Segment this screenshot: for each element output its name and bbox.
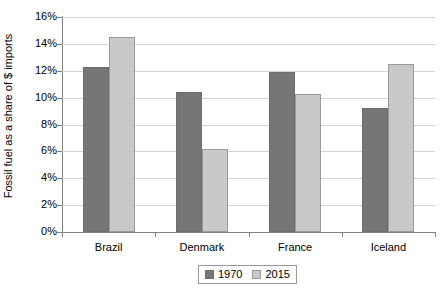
bar-france-2015 [295,94,321,232]
legend-swatch-1970-icon [205,270,214,279]
bar-brazil-2015 [109,37,135,232]
bar-group [269,17,321,232]
legend-label-1970: 1970 [218,268,242,281]
bar-denmark-2015 [202,149,228,232]
bar-france-1970 [269,72,295,232]
y-tick-label: 16% [15,11,57,22]
bar-iceland-1970 [362,108,388,232]
y-tick-label: 6% [15,145,57,156]
y-tick-label: 0% [15,226,57,237]
bars-layer [62,17,435,232]
legend-item-1970: 1970 [205,268,242,281]
y-tick-label: 12% [15,65,57,76]
y-axis-title: Fossil fuel as a share of $ imports [0,0,16,232]
x-tick-mark [435,232,436,237]
chart-legend: 1970 2015 [198,265,297,284]
legend-swatch-2015-icon [252,270,261,279]
y-tick-label: 14% [15,38,57,49]
y-tick-label: 8% [15,119,57,130]
x-category-label: Iceland [328,241,441,254]
x-tick-mark [249,232,250,237]
y-tick-label: 2% [15,199,57,210]
legend-item-2015: 2015 [252,268,289,281]
x-tick-mark [155,232,156,237]
y-tick-label: 4% [15,172,57,183]
y-tick-label: 10% [15,92,57,103]
bar-iceland-2015 [388,64,414,232]
bar-group [83,17,135,232]
bar-chart: Fossil fuel as a share of $ imports 0%2%… [0,0,441,299]
bar-denmark-1970 [176,92,202,232]
x-tick-mark [342,232,343,237]
bar-brazil-1970 [83,67,109,232]
bar-group [362,17,414,232]
bar-group [176,17,228,232]
x-tick-mark [62,232,63,237]
legend-label-2015: 2015 [265,268,289,281]
